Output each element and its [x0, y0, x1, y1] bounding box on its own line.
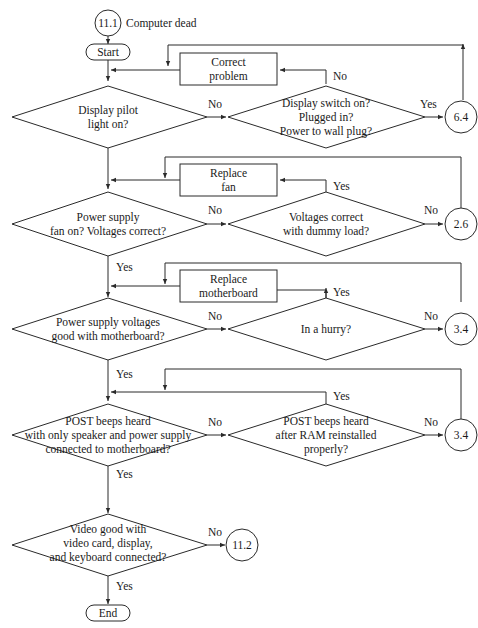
svg-text:Display switch on?: Display switch on?	[282, 97, 370, 110]
troubleshooting-flowchart: 11.1 Computer dead Start Correct problem…	[0, 0, 478, 628]
svg-text:problem: problem	[209, 70, 247, 83]
svg-text:with dummy load?: with dummy load?	[283, 225, 369, 238]
decision-power-supply-fan: Power supply fan on? Voltages correct?	[12, 192, 207, 256]
svg-text:Power supply: Power supply	[77, 211, 140, 224]
svg-text:Power to wall plug?: Power to wall plug?	[280, 125, 372, 138]
connector-6-4[interactable]: 6.4	[445, 101, 477, 133]
svg-text:fan: fan	[221, 181, 236, 193]
row3-check-no-label: No	[424, 310, 438, 322]
action-correct-problem: Correct problem	[180, 53, 277, 85]
svg-text:after RAM reinstalled: after RAM reinstalled	[276, 429, 377, 441]
row1-check-no-label: No	[333, 70, 347, 82]
svg-text:6.4: 6.4	[454, 111, 469, 123]
connector-3-4-b[interactable]: 3.4	[445, 419, 477, 451]
svg-text:Display pilot: Display pilot	[78, 104, 139, 117]
svg-text:with only speaker and power su: with only speaker and power supply	[25, 429, 192, 442]
row1-no-label: No	[208, 98, 222, 110]
decision-post-beeps-speaker: POST beeps heard with only speaker and p…	[12, 404, 207, 466]
check-voltages-dummy-load: Voltages correct with dummy load?	[228, 192, 425, 256]
svg-text:motherboard: motherboard	[199, 287, 258, 299]
row4-no-label: No	[208, 416, 222, 428]
row2-check-no-label: No	[424, 204, 438, 216]
check-in-a-hurry: In a hurry?	[228, 298, 425, 360]
check-post-beeps-ram: POST beeps heard after RAM reinstalled p…	[228, 404, 425, 466]
entry-connector-label: 11.1	[98, 17, 118, 29]
row3-check-yes-label: Yes	[333, 286, 350, 298]
row4-check-no-label: No	[424, 416, 438, 428]
svg-text:Replace: Replace	[210, 167, 247, 180]
row2-check-yes-label: Yes	[333, 180, 350, 192]
connector-3-4-a[interactable]: 3.4	[445, 313, 477, 345]
row4-check-yes-label: Yes	[333, 390, 350, 402]
svg-text:connected to motherboard?: connected to motherboard?	[45, 443, 170, 455]
svg-text:POST beeps heard: POST beeps heard	[283, 415, 369, 428]
svg-text:and keyboard connected?: and keyboard connected?	[50, 551, 167, 564]
svg-text:Plugged in?: Plugged in?	[299, 111, 354, 124]
svg-text:Power supply voltages: Power supply voltages	[56, 316, 161, 329]
row2-no-label: No	[208, 204, 222, 216]
check-display-switch: Display switch on? Plugged in? Power to …	[228, 86, 425, 148]
end-label: End	[99, 607, 118, 619]
decision-voltages-motherboard: Power supply voltages good with motherbo…	[12, 298, 207, 360]
svg-text:Replace: Replace	[210, 273, 247, 286]
svg-text:light on?: light on?	[88, 118, 129, 131]
row3-no-label: No	[208, 310, 222, 322]
svg-text:Video good with: Video good with	[70, 523, 147, 536]
action-replace-motherboard: Replace motherboard	[180, 270, 277, 302]
svg-text:POST beeps heard: POST beeps heard	[65, 415, 151, 428]
action-replace-fan: Replace fan	[180, 164, 277, 196]
svg-text:In a hurry?: In a hurry?	[301, 323, 351, 336]
svg-text:3.4: 3.4	[454, 429, 469, 441]
row1-check-yes-label: Yes	[420, 98, 437, 110]
entry-connector-11-1: 11.1	[95, 10, 121, 36]
row5-yes-label: Yes	[116, 580, 133, 592]
flowchart-title: Computer dead	[126, 17, 197, 30]
svg-text:fan on? Voltages correct?: fan on? Voltages correct?	[50, 225, 166, 238]
start-label: Start	[97, 46, 120, 58]
connector-11-2[interactable]: 11.2	[226, 529, 258, 561]
start-terminal: Start	[86, 44, 130, 60]
row2-yes-label: Yes	[116, 261, 133, 273]
svg-text:Voltages correct: Voltages correct	[289, 211, 364, 224]
svg-text:3.4: 3.4	[454, 323, 469, 335]
svg-text:11.2: 11.2	[232, 539, 252, 551]
row5-no-label: No	[208, 526, 222, 538]
svg-text:video card, display,: video card, display,	[63, 537, 152, 550]
row3-yes-label: Yes	[116, 368, 133, 380]
connector-2-6[interactable]: 2.6	[445, 208, 477, 240]
decision-video-good: Video good with video card, display, and…	[12, 514, 207, 576]
svg-text:good with motherboard?: good with motherboard?	[51, 330, 164, 343]
svg-text:Correct: Correct	[211, 56, 246, 68]
decision-display-pilot-light: Display pilot light on?	[12, 86, 207, 148]
svg-text:2.6: 2.6	[454, 218, 469, 230]
end-terminal: End	[86, 605, 130, 621]
svg-text:properly?: properly?	[304, 443, 348, 456]
row4-yes-label: Yes	[116, 468, 133, 480]
